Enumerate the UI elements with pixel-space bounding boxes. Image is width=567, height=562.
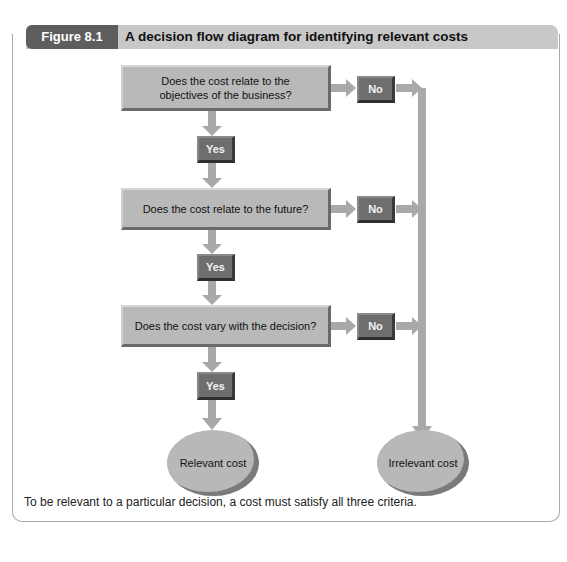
no-badge-3: No (357, 313, 395, 340)
no-badge-2: No (357, 196, 395, 223)
yes-badge-2: Yes (197, 254, 235, 281)
question-varies: Does the cost vary with the decision? (121, 305, 331, 347)
yes-badge-1: Yes (197, 136, 235, 163)
outcome-relevant-cost: Relevant cost (167, 430, 259, 496)
yes-badge-3: Yes (197, 372, 235, 400)
question-objectives: Does the cost relate to theobjectives of… (121, 65, 331, 111)
no-badge-1: No (357, 76, 395, 103)
question-text: objectives of the business? (159, 88, 291, 102)
question-future: Does the cost relate to the future? (121, 188, 331, 230)
figure-caption: To be relevant to a particular decision,… (24, 495, 417, 509)
outcome-irrelevant-cost: Irrelevant cost (377, 430, 469, 496)
question-text: Does the cost relate to the (159, 74, 291, 88)
